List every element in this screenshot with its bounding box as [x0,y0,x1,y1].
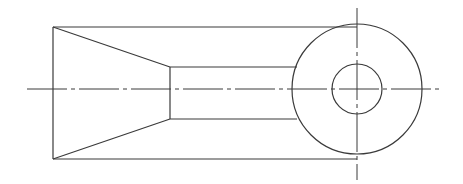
taper-top-line [53,27,170,67]
taper-bottom-line [53,119,170,159]
technical-drawing [0,0,463,184]
drawing-svg [0,0,463,184]
